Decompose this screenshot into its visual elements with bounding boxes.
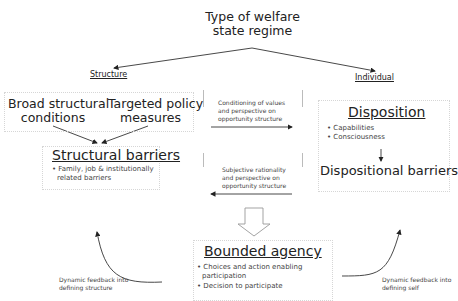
arrow-feedback-self [342,230,400,276]
bounded-agency-bullets: • Choices and action enabling participat… [197,263,302,291]
disposition-bullet-2: • Consciousness [327,133,385,142]
broad-line1: Broad structural [8,97,98,111]
feedback-self-line2: defining self [382,284,451,292]
broad-line2: conditions [8,111,98,125]
subjective-line2: and perspective on [222,174,286,182]
root-node: Type of welfare state regime [180,10,325,39]
arrow-feedback-structure [97,232,162,282]
targeted-line2: measures [108,111,193,125]
subjective-line1: Subjective rationality [222,166,286,174]
disposition-heading: Disposition [348,104,425,120]
conditioning-line3: opportunity structure [218,115,285,123]
bounded-agency-heading: Bounded agency [204,243,322,259]
branch-structure: Structure [90,70,127,79]
divider-right-top [302,90,303,107]
subjective-line3: opportunity structure [222,182,286,190]
feedback-structure-label: Dynamic feedback into defining structure [59,276,128,292]
hollow-arrow-down-icon [238,208,270,236]
divider-left-top [203,90,204,107]
feedback-self-line1: Dynamic feedback into [382,276,451,284]
structural-bullet-1-cont: related barriers [52,174,154,183]
conditioning-text: Conditioning of values and perspective o… [218,99,285,122]
agency-bullet-1: • Choices and action enabling [197,263,302,272]
disposition-bullets: • Capabilities • Consciousness [327,124,385,143]
feedback-structure-line1: Dynamic feedback into [59,276,128,284]
structural-bullet-1: • Family, job & institutionally [52,165,154,174]
disposition-bullet-1: • Capabilities [327,124,385,133]
broad-structural-conditions: Broad structural conditions [8,97,98,126]
subjective-rationality-text: Subjective rationality and perspective o… [222,166,286,189]
arrow-root-to-individual [252,48,375,71]
arrow-root-to-structure [114,48,252,68]
targeted-line1: Targeted policy [108,97,193,111]
conditioning-line1: Conditioning of values [218,99,285,107]
root-line2: state regime [180,24,325,38]
divider-left-bottom [203,153,204,167]
conditioning-line2: and perspective on [218,107,285,115]
agency-bullet-2: • Decision to participate [197,282,302,291]
agency-bullet-1-cont: participation [197,272,302,281]
branch-individual: Individual [355,73,394,82]
root-line1: Type of welfare [180,10,325,24]
divider-right-bottom [302,153,303,167]
feedback-self-label: Dynamic feedback into defining self [382,276,451,292]
structural-barriers-heading: Structural barriers [52,147,180,163]
targeted-policy-measures: Targeted policy measures [108,97,193,126]
dispositional-barriers: Dispositional barriers [320,164,458,179]
feedback-structure-line2: defining structure [59,284,128,292]
structural-barriers-bullets: • Family, job & institutionally related … [52,165,154,184]
